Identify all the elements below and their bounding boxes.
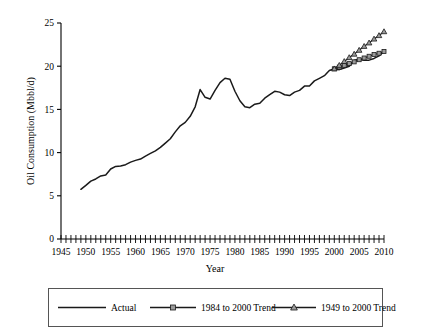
x-axis-tick-label: 1990	[275, 247, 294, 257]
y-axis-tick-label: 5	[49, 191, 54, 201]
x-axis-tick-label: 1965	[151, 247, 170, 257]
series-marker-square	[372, 53, 376, 57]
series-marker-square	[357, 58, 361, 62]
series-marker-square	[367, 54, 371, 58]
y-axis-tick-label: 0	[49, 234, 54, 244]
legend-label: 1984 to 2000 Trend	[201, 303, 276, 313]
series-marker-square	[342, 63, 346, 67]
legend-label: Actual	[111, 303, 137, 313]
oil-consumption-line-chart: 0510152025 19451950195519601965197019751…	[0, 0, 425, 336]
chart-figure: 0510152025 19451950195519601965197019751…	[0, 0, 425, 336]
x-axis-tick-label: 1980	[225, 247, 244, 257]
x-axis-tick-label: 1970	[176, 247, 195, 257]
y-axis-title: Oil Consumption (Mbbl/d)	[25, 77, 37, 185]
x-axis-tick-label: 2005	[350, 247, 369, 257]
series-marker-square	[362, 56, 366, 60]
x-axis-tick-label: 1985	[250, 247, 269, 257]
legend-label: 1949 to 2000 Trend	[321, 303, 396, 313]
x-axis-tick-label: 2000	[325, 247, 344, 257]
series-marker-square	[171, 305, 176, 310]
y-axis-tick-label: 10	[45, 148, 55, 158]
y-axis-tick-label: 15	[45, 105, 55, 115]
chart-legend: Actual1984 to 2000 Trend1949 to 2000 Tre…	[49, 289, 396, 327]
x-axis-tick-label: 1995	[300, 247, 319, 257]
x-axis-tick-label: 1945	[52, 247, 71, 257]
x-axis-tick-label: 1975	[201, 247, 220, 257]
series-marker-square	[352, 60, 356, 64]
x-axis-tick-label: 1960	[126, 247, 145, 257]
x-axis-tick-label: 1950	[76, 247, 95, 257]
series-marker-square	[347, 62, 351, 66]
x-axis-tick-label: 1955	[101, 247, 120, 257]
y-axis-tick-label: 20	[45, 62, 55, 72]
series-marker-square	[377, 51, 381, 55]
x-axis-title: Year	[206, 263, 225, 274]
series-marker-square	[382, 50, 386, 54]
y-axis-tick-label: 25	[45, 18, 55, 28]
x-axis-tick-label: 2010	[375, 247, 394, 257]
